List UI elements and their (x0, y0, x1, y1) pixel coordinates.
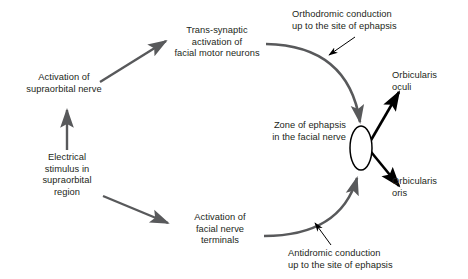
edge-ephapsis-to-oculi (367, 92, 399, 147)
node-orthodromic-conduction: Orthodromic conduction up to the site of… (292, 9, 454, 32)
edge-transsynaptic-to-ephapsis (266, 44, 360, 122)
node-trans-synaptic-activation: Trans-synaptic activation of facial moto… (158, 25, 276, 60)
antidromic-pointer-icon (315, 223, 331, 245)
node-electrical-stimulus: Electrical stimulus in supraorbital regi… (22, 152, 112, 198)
node-activation-supraorbital-nerve: Activation of supraorbital nerve (8, 72, 120, 95)
node-zone-of-ephapsis: Zone of ephapsis in the facial nerve (246, 120, 346, 143)
edge-stimulus-to-terminals (103, 196, 168, 223)
ephapsis-flow-diagram: Activation of supraorbital nerve Trans-s… (0, 0, 468, 279)
node-activation-facial-nerve-terminals: Activation of facial nerve terminals (174, 212, 266, 247)
node-orbicularis-oculi: Orbicularis oculi (392, 70, 464, 93)
node-orbicularis-oris: Orbicularis oris (392, 176, 464, 199)
ephapsis-ellipse (350, 126, 372, 170)
node-antidromic-conduction: Antidromic conduction up to the site of … (288, 248, 454, 271)
edge-terminals-to-ephapsis (264, 178, 357, 236)
orthodromic-pointer-icon (329, 37, 355, 55)
